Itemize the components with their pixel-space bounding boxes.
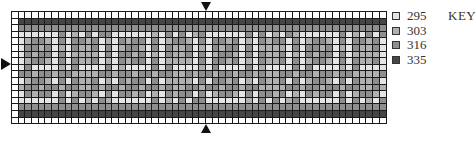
chart-cell	[360, 19, 366, 25]
chart-cell	[66, 38, 72, 44]
chart-cell	[213, 104, 219, 110]
chart-cell	[186, 12, 192, 18]
chart-cell	[380, 118, 386, 124]
chart-cell	[52, 38, 58, 44]
chart-cell	[66, 19, 72, 25]
chart-cell	[233, 91, 239, 97]
chart-cell	[213, 52, 219, 58]
chart-cell	[32, 25, 38, 31]
chart-cell	[253, 98, 259, 104]
chart-cell	[373, 91, 379, 97]
chart-cell	[173, 85, 179, 91]
chart-cell	[166, 111, 172, 117]
chart-cell	[166, 118, 172, 124]
chart-cell	[373, 25, 379, 31]
chart-cell	[239, 91, 245, 97]
chart-cell	[213, 85, 219, 91]
chart-cell	[52, 91, 58, 97]
chart-cell	[86, 25, 92, 31]
chart-cell	[52, 78, 58, 84]
chart-cell	[206, 118, 212, 124]
chart-cell	[280, 71, 286, 77]
chart-cell	[159, 45, 165, 51]
chart-cell	[366, 45, 372, 51]
chart-cell	[306, 25, 312, 31]
chart-cell	[366, 58, 372, 64]
chart-cell	[246, 71, 252, 77]
chart-cell	[12, 65, 18, 71]
chart-cell	[380, 19, 386, 25]
chart-cell	[173, 12, 179, 18]
chart-cell	[86, 85, 92, 91]
chart-cell	[166, 85, 172, 91]
chart-cell	[72, 45, 78, 51]
chart-cell	[233, 52, 239, 58]
chart-cell	[280, 58, 286, 64]
chart-cell	[293, 32, 299, 38]
chart-cell	[340, 65, 346, 71]
chart-cell	[259, 25, 265, 31]
chart-cell	[380, 58, 386, 64]
chart-cell	[333, 85, 339, 91]
chart-cell	[313, 78, 319, 84]
chart-cell	[193, 45, 199, 51]
chart-cell	[32, 111, 38, 117]
chart-cell	[366, 12, 372, 18]
chart-cell	[293, 58, 299, 64]
chart-cell	[199, 85, 205, 91]
chart-cell	[159, 19, 165, 25]
chart-cell	[59, 71, 65, 77]
chart-cell	[373, 65, 379, 71]
chart-cell	[139, 58, 145, 64]
chart-cell	[32, 118, 38, 124]
chart-cell	[293, 85, 299, 91]
chart-cell	[366, 98, 372, 104]
chart-cell	[66, 45, 72, 51]
chart-cell	[219, 91, 225, 97]
chart-cell	[59, 12, 65, 18]
chart-cell	[106, 85, 112, 91]
chart-cell	[59, 85, 65, 91]
chart-cell	[380, 98, 386, 104]
chart-cell	[320, 65, 326, 71]
chart-cell	[159, 38, 165, 44]
chart-cell	[166, 58, 172, 64]
chart-cell	[353, 45, 359, 51]
chart-cell	[246, 98, 252, 104]
chart-cell	[79, 71, 85, 77]
chart-cell	[206, 12, 212, 18]
chart-cell	[119, 52, 125, 58]
chart-cell	[45, 91, 51, 97]
chart-cell	[45, 38, 51, 44]
chart-cell	[239, 65, 245, 71]
chart-cell	[266, 71, 272, 77]
chart-cell	[106, 98, 112, 104]
chart-cell	[353, 78, 359, 84]
chart-cell	[320, 118, 326, 124]
chart-cell	[92, 71, 98, 77]
chart-cell	[226, 38, 232, 44]
chart-cell	[25, 32, 31, 38]
chart-cell	[186, 65, 192, 71]
chart-cell	[280, 45, 286, 51]
chart-cell	[346, 78, 352, 84]
chart-cell	[320, 19, 326, 25]
chart-cell	[380, 91, 386, 97]
chart-cell	[92, 85, 98, 91]
chart-cell	[226, 65, 232, 71]
chart-cell	[259, 118, 265, 124]
chart-cell	[66, 32, 72, 38]
chart-cell	[353, 111, 359, 117]
chart-cell	[132, 118, 138, 124]
chart-cell	[306, 118, 312, 124]
chart-cell	[206, 58, 212, 64]
chart-cell	[320, 38, 326, 44]
chart-cell	[25, 85, 31, 91]
chart-cell	[346, 58, 352, 64]
chart-cell	[52, 104, 58, 110]
chart-cell	[300, 85, 306, 91]
chart-cell	[193, 71, 199, 77]
chart-cell	[119, 104, 125, 110]
chart-cell	[246, 118, 252, 124]
chart-cell	[346, 65, 352, 71]
